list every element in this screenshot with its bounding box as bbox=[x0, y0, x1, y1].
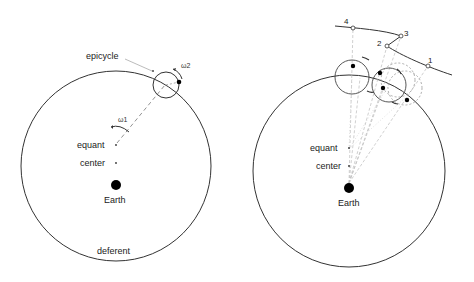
deferent-circle bbox=[21, 71, 211, 261]
omega2-arrow-icon bbox=[173, 69, 182, 79]
epicycle-label: epicycle bbox=[86, 51, 119, 61]
omega1-arrow-icon bbox=[111, 126, 129, 132]
epicycle-pointer bbox=[125, 59, 152, 71]
deferent-label: deferent bbox=[97, 246, 131, 256]
earth-label-right: Earth bbox=[338, 198, 360, 208]
center-label-right: center bbox=[316, 161, 341, 171]
planet-pos-2 bbox=[378, 71, 382, 75]
center-label: center bbox=[80, 158, 105, 168]
path-point-4 bbox=[351, 26, 355, 30]
path-label-4: 4 bbox=[344, 17, 349, 26]
epicycle-pointer-dot bbox=[152, 70, 154, 72]
earth-dot bbox=[111, 180, 121, 190]
path-point-2 bbox=[385, 44, 389, 48]
equant-label-right: equant bbox=[310, 143, 338, 153]
omega2-label: ω2 bbox=[181, 62, 190, 69]
omega1-label: ω1 bbox=[118, 116, 127, 123]
path-label-1: 1 bbox=[428, 56, 433, 65]
path-label-3: 3 bbox=[404, 29, 409, 38]
path-point-3 bbox=[399, 34, 403, 38]
equant-radius-line bbox=[117, 85, 165, 143]
left-panel: epicycle ω2 ω1 equant center Earth defer… bbox=[21, 51, 211, 261]
earth-dot-right bbox=[344, 183, 354, 193]
right-panel: 4 3 2 1 equant center Earth bbox=[253, 17, 452, 267]
earth-label: Earth bbox=[104, 195, 126, 205]
ptolemaic-model-diagram: epicycle ω2 ω1 equant center Earth defer… bbox=[0, 0, 474, 282]
planet-pos-1 bbox=[351, 64, 355, 68]
equant-label: equant bbox=[77, 140, 105, 150]
sight-lines bbox=[349, 28, 428, 183]
equant-dot-right bbox=[348, 147, 350, 149]
center-dot-right bbox=[348, 165, 350, 167]
planet-pos-4 bbox=[405, 98, 409, 102]
path-label-2: 2 bbox=[377, 39, 382, 48]
planet-dot bbox=[177, 80, 182, 85]
equant-dot bbox=[115, 144, 117, 146]
planet-pos-3 bbox=[381, 86, 385, 90]
center-dot bbox=[115, 162, 117, 164]
